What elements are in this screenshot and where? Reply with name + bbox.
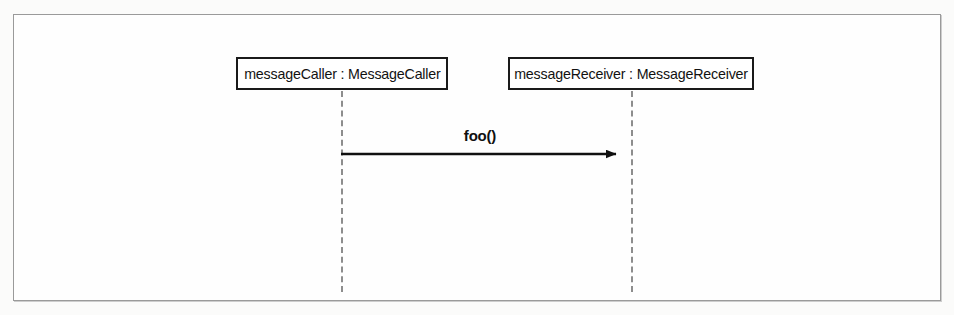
participant-label-caller: messageCaller : MessageCaller	[244, 65, 440, 82]
lifeline-receiver	[631, 91, 633, 292]
message-arrow-foo	[341, 143, 631, 167]
message-label-foo: foo()	[444, 127, 516, 144]
participant-box-caller: messageCaller : MessageCaller	[236, 57, 448, 90]
lifeline-caller	[341, 91, 343, 292]
sequence-diagram-figure: messageCaller : MessageCaller messageRec…	[0, 0, 954, 315]
diagram-frame: messageCaller : MessageCaller messageRec…	[13, 14, 941, 301]
participant-box-receiver: messageReceiver : MessageReceiver	[508, 57, 754, 90]
participant-label-receiver: messageReceiver : MessageReceiver	[514, 65, 748, 82]
